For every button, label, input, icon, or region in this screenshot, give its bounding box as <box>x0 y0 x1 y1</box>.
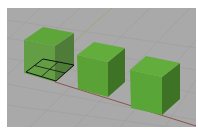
perspective-viewport[interactable] <box>7 8 196 127</box>
box-3[interactable] <box>130 56 180 115</box>
box-3-front-face <box>130 70 162 115</box>
box-2[interactable] <box>77 42 125 97</box>
box-1[interactable] <box>24 27 74 82</box>
